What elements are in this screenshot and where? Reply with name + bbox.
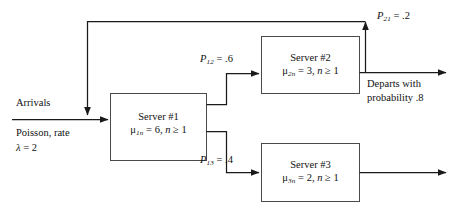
server-2-name: Server #2 bbox=[290, 52, 331, 63]
server-3-n-symbol: n bbox=[317, 172, 322, 183]
routing-label-p21: P21 = .2 bbox=[377, 10, 410, 23]
p13-subscript: 13 bbox=[206, 159, 214, 167]
p21-value: = .2 bbox=[394, 10, 410, 21]
server-1-name: Server #1 bbox=[138, 111, 179, 122]
server-2-rate: μ2n = 3, n ≥ 1 bbox=[261, 65, 360, 78]
server-1-n-symbol: n bbox=[165, 124, 170, 135]
p12-subscript: 12 bbox=[206, 58, 214, 66]
server-3-label: Server #3 μ3n = 2, n ≥ 1 bbox=[261, 159, 360, 185]
server-1-mu-subscript: 1n bbox=[136, 129, 144, 137]
routing-label-p12: P12 = .6 bbox=[200, 53, 233, 66]
arrivals-label: Arrivals bbox=[16, 97, 50, 109]
server-3-mu-subscript: 3n bbox=[288, 177, 296, 185]
diagram-canvas bbox=[0, 0, 453, 220]
server-1-n-condition: ≥ 1 bbox=[173, 124, 187, 135]
server-2-n-symbol: n bbox=[317, 65, 322, 76]
server-1-mu-value: = 6, bbox=[146, 124, 162, 135]
departure-note-line1: Departs with bbox=[367, 78, 421, 90]
arrivals-rate-label: λ = 2 bbox=[16, 142, 37, 154]
server-3-name: Server #3 bbox=[290, 159, 331, 170]
server-1-label: Server #1 μ1n = 6, n ≥ 1 bbox=[110, 111, 207, 137]
branch-server1-to-server2 bbox=[207, 74, 260, 105]
server-2-mu-subscript: 2n bbox=[288, 70, 296, 78]
p12-value: = .6 bbox=[217, 53, 233, 64]
server-2-mu-value: = 3, bbox=[298, 65, 314, 76]
server-3-rate: μ3n = 2, n ≥ 1 bbox=[261, 172, 360, 185]
lambda-value: = 2 bbox=[23, 142, 37, 153]
server-2-label: Server #2 μ2n = 3, n ≥ 1 bbox=[261, 52, 360, 78]
p21-subscript: 21 bbox=[383, 15, 391, 23]
server-3-mu-value: = 2, bbox=[298, 172, 314, 183]
routing-label-p13: P13 = .4 bbox=[200, 154, 233, 167]
server-1-rate: μ1n = 6, n ≥ 1 bbox=[110, 124, 207, 137]
departure-note-line2: probability .8 bbox=[367, 92, 424, 104]
server-3-n-condition: ≥ 1 bbox=[325, 172, 339, 183]
lambda-symbol: λ bbox=[16, 142, 21, 153]
p13-value: = .4 bbox=[217, 154, 233, 165]
queueing-network-diagram: Arrivals Poisson, rate λ = 2 Server #1 μ… bbox=[0, 0, 453, 220]
arrivals-poisson-label: Poisson, rate bbox=[16, 127, 70, 139]
server-2-n-condition: ≥ 1 bbox=[325, 65, 339, 76]
